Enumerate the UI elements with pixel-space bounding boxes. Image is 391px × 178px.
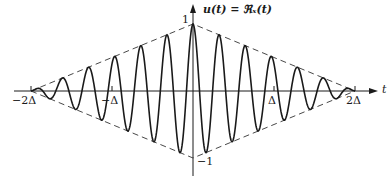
x-tick-label-negdelta: −Δ — [101, 95, 118, 106]
y-tick-bottom-label: −1 — [197, 156, 213, 167]
x-axis-arrow-icon — [369, 88, 378, 94]
y-tick-top-label: 1 — [182, 14, 189, 25]
x-tick-label-2delta: 2Δ — [346, 95, 361, 106]
x-axis-label: t — [382, 84, 386, 95]
y-axis-arrow-icon — [190, 4, 196, 13]
x-tick-label-delta: Δ — [268, 95, 276, 106]
signal-plot — [0, 0, 391, 178]
y-axis-label: u(t) = ℜₓ(t) — [203, 4, 272, 15]
x-tick-label-neg2delta: −2Δ — [12, 95, 36, 106]
